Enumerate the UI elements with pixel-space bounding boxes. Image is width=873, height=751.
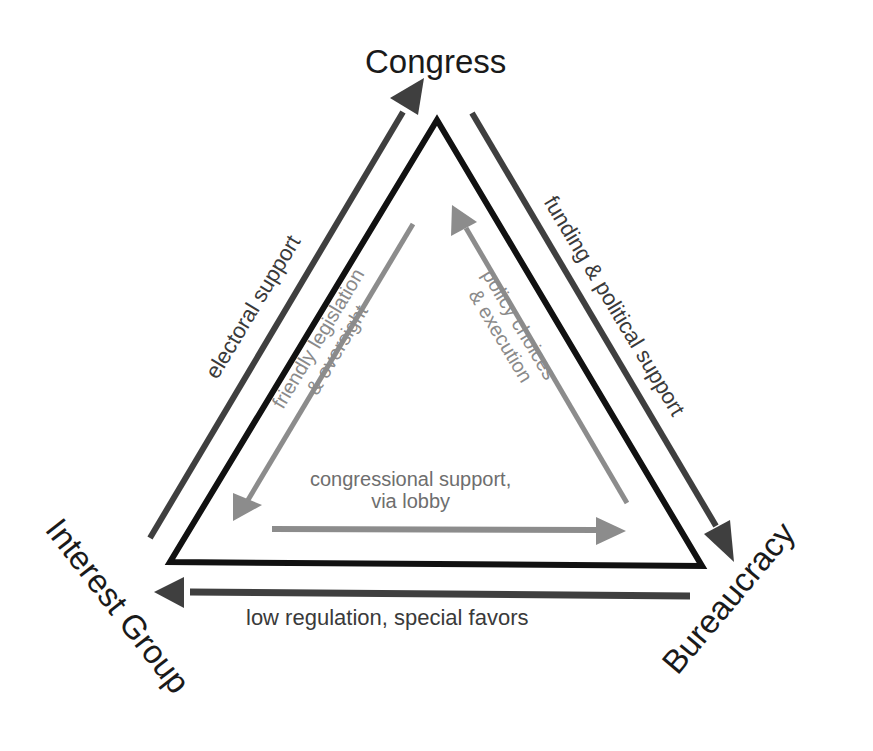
arrow-congressional-support (272, 517, 626, 545)
node-congress-label: Congress (365, 44, 506, 80)
arrow-low-regulation (154, 577, 690, 608)
label-congressional-support-line1: congressional support, (310, 468, 511, 490)
iron-triangle-diagram: Congress Interest Group Bureaucracy elec… (0, 0, 873, 751)
label-congressional-support: congressional support, via lobby (310, 468, 511, 512)
label-congressional-support-line2: via lobby (310, 490, 511, 512)
label-low-regulation: low regulation, special favors (246, 606, 528, 630)
